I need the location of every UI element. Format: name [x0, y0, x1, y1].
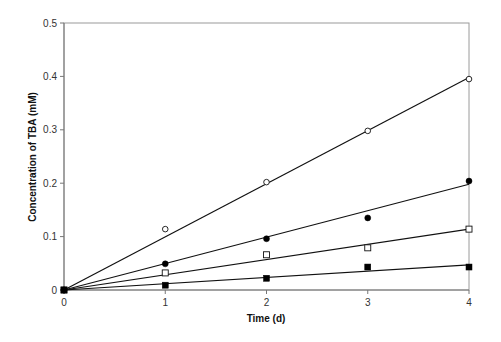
- x-axis-ticks: 01234: [61, 290, 472, 308]
- filled-circle-marker: [264, 236, 270, 242]
- y-tick-label: 0.4: [43, 71, 57, 82]
- y-tick-label: 0.2: [43, 178, 57, 189]
- filled-square-marker: [61, 287, 67, 293]
- filled-square-marker: [264, 275, 270, 281]
- filled-square-marker: [365, 264, 371, 270]
- x-tick-label: 1: [162, 297, 168, 308]
- y-tick-label: 0.3: [43, 124, 57, 135]
- plot-area: [64, 23, 469, 290]
- x-axis-title: Time (d): [247, 313, 286, 324]
- y-tick-label: 0: [51, 285, 57, 296]
- filled-square-marker: [466, 264, 472, 270]
- x-tick-label: 4: [466, 297, 472, 308]
- y-tick-label: 0.5: [43, 18, 57, 29]
- open-square-marker: [365, 245, 371, 251]
- filled-circle-marker: [365, 215, 371, 221]
- chart-canvas: 00.10.20.30.40.5 01234 Time (d) Concentr…: [0, 0, 501, 342]
- x-tick-label: 3: [365, 297, 371, 308]
- open-square-marker: [264, 252, 270, 258]
- x-tick-label: 0: [61, 297, 67, 308]
- y-axis-ticks: 00.10.20.30.40.5: [43, 18, 64, 296]
- open-circle-marker: [365, 128, 371, 134]
- filled-square-marker: [162, 282, 168, 288]
- plot-border: [64, 23, 469, 290]
- open-circle-marker: [264, 179, 270, 185]
- y-tick-label: 0.1: [43, 231, 57, 242]
- filled-circle-marker: [162, 261, 168, 267]
- x-tick-label: 2: [264, 297, 270, 308]
- open-square-marker: [466, 226, 472, 232]
- filled-circle-marker: [466, 178, 472, 184]
- open-circle-marker: [466, 76, 472, 82]
- y-axis-title: Concentration of TBA (mM): [27, 92, 38, 222]
- open-circle-marker: [162, 226, 168, 232]
- open-square-marker: [162, 270, 168, 276]
